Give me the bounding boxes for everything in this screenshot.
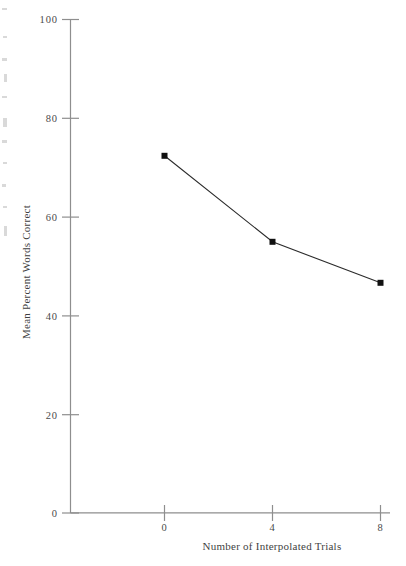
- y-tick-label-20: 20: [8, 410, 58, 421]
- plot-canvas: [0, 0, 406, 566]
- data-point-markers: [162, 153, 384, 286]
- x-tick-label-0: 0: [150, 522, 180, 533]
- x-axis: [71, 505, 391, 521]
- x-tick-label-4: 4: [258, 522, 288, 533]
- y-tick-label-60: 60: [8, 212, 58, 223]
- x-axis-title: Number of Interpolated Trials: [203, 540, 342, 552]
- y-tick-label-40: 40: [8, 311, 58, 322]
- data-point-marker: [270, 239, 276, 245]
- data-point-marker: [378, 280, 384, 286]
- y-tick-label-100: 100: [8, 14, 58, 25]
- data-series-line: [165, 156, 381, 283]
- chart-figure: 100 80 60 40 20 0 0 4 8 Number of Interp…: [0, 0, 406, 566]
- data-point-marker: [162, 153, 168, 159]
- x-tick-label-8: 8: [366, 522, 396, 533]
- y-axis: [62, 19, 79, 513]
- y-axis-title: Mean Percent Words Correct: [20, 205, 32, 339]
- y-tick-label-80: 80: [8, 113, 58, 124]
- y-tick-label-0: 0: [8, 508, 58, 519]
